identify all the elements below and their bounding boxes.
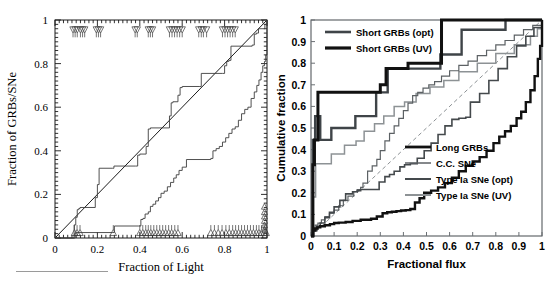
legend-label: Type Ia SNe (opt) [436,174,513,185]
left-xtick-label: 0.8 [218,243,232,255]
right-x-axis-label: Fractional flux [387,258,466,270]
left-panel: 00.20.40.60.8100.20.40.60.81Fraction of … [0,0,280,283]
legend-label: Type Ia SNe (UV) [436,190,511,201]
left-ytick-label: 0.4 [34,145,48,157]
up-triangle-marker [175,229,181,235]
right-ytick-label: 0.4 [291,144,306,156]
right-xtick-label: 0.7 [465,240,480,252]
right-ytick-label: 0 [300,230,306,242]
right-xtick-label: 0.8 [488,240,503,252]
right-xtick-label: 0.3 [373,240,388,252]
right-ytick-label: 0.5 [291,122,306,134]
right-xtick-label: 0.2 [350,240,365,252]
legend-label: Short GRBs (opt) [356,27,434,38]
left-ytick-label: 0 [43,232,49,244]
right-ytick-label: 0.6 [291,100,306,112]
legend-label: Short GRBs (UV) [356,43,432,54]
right-panel-svg: 00.10.20.30.40.50.60.70.80.9100.10.20.30… [275,0,555,283]
up-triangle-marker [172,229,178,235]
legend-label: Long GRBs [436,142,488,153]
right-legend-upper: Short GRBs (opt)Short GRBs (UV) [325,27,434,54]
left-xtick-label: 0.4 [133,243,147,255]
left-ytick-label: 0.2 [34,188,48,200]
right-xtick-label: 1 [539,240,545,252]
left-ytick-label: 1 [43,14,49,26]
left-xtick-label: 0 [52,243,58,255]
left-top-marker-group [70,27,239,38]
right-xtick-label: 0 [308,240,314,252]
right-xtick-label: 0.1 [327,240,342,252]
right-ytick-label: 0.2 [291,187,306,199]
right-ytick-label: 0.8 [291,57,306,69]
left-panel-svg: 00.20.40.60.8100.20.40.60.81Fraction of … [0,0,280,283]
left-xtick-label: 1 [264,243,270,255]
left-ytick-label: 0.8 [34,58,48,70]
left-x-axis-label: Fraction of Light [118,260,204,274]
left-y-axis-label: Fraction of GRBs/SNe [5,72,19,186]
right-ytick-label: 0.7 [291,79,306,91]
left-ytick-label: 0.6 [34,101,48,113]
right-ytick-label: 0.9 [291,36,306,48]
up-triangle-marker [226,229,232,235]
right-ytick-label: 0.1 [291,208,306,220]
right-ytick-label: 1 [300,14,306,26]
left-bottom-marker-group [71,225,269,236]
right-ytick-label: 0.3 [291,165,306,177]
legend-label: C.C. SNe [436,158,476,169]
right-xtick-label: 0.9 [512,240,527,252]
figure-container: 00.20.40.60.8100.20.40.60.81Fraction of … [0,0,555,283]
right-y-axis-label: Cumulative fraction [275,74,287,181]
right-xtick-label: 0.6 [442,240,457,252]
right-panel: 00.10.20.30.40.50.60.70.80.9100.10.20.30… [275,0,555,283]
left-xtick-label: 0.6 [175,243,189,255]
left-xtick-label: 0.2 [91,243,105,255]
footnote-rule [16,271,108,272]
right-xtick-label: 0.5 [419,240,434,252]
right-xtick-label: 0.4 [396,240,411,252]
